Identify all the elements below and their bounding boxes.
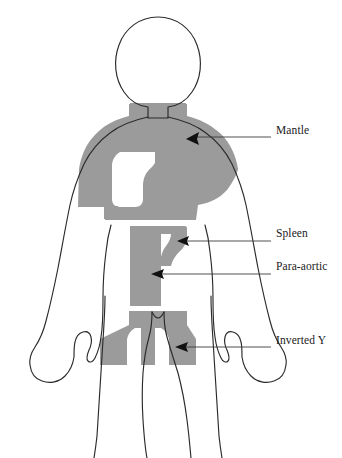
right-leg-outline [211,296,222,458]
label-para-aortic: Para-aortic [276,260,328,272]
left-leg-outline [94,296,105,458]
head-outline [116,17,201,118]
label-inverted-y: Inverted Y [276,334,326,346]
para-aortic-field [130,226,161,306]
radiation-fields-diagram: Mantle Spleen Para-aortic Inverted Y [0,0,342,458]
inverted-y-field [100,311,196,365]
label-mantle: Mantle [276,124,309,136]
label-spleen: Spleen [276,227,308,239]
